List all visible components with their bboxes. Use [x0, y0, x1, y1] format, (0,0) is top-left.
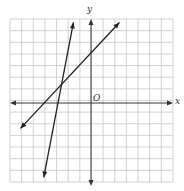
coordinate-plane [0, 0, 184, 191]
x-axis-label: x [175, 96, 180, 106]
plotted-lines [20, 22, 119, 177]
y-axis-label: y [87, 4, 92, 14]
origin-label: O [93, 93, 100, 103]
arrowhead-icon [70, 22, 75, 28]
